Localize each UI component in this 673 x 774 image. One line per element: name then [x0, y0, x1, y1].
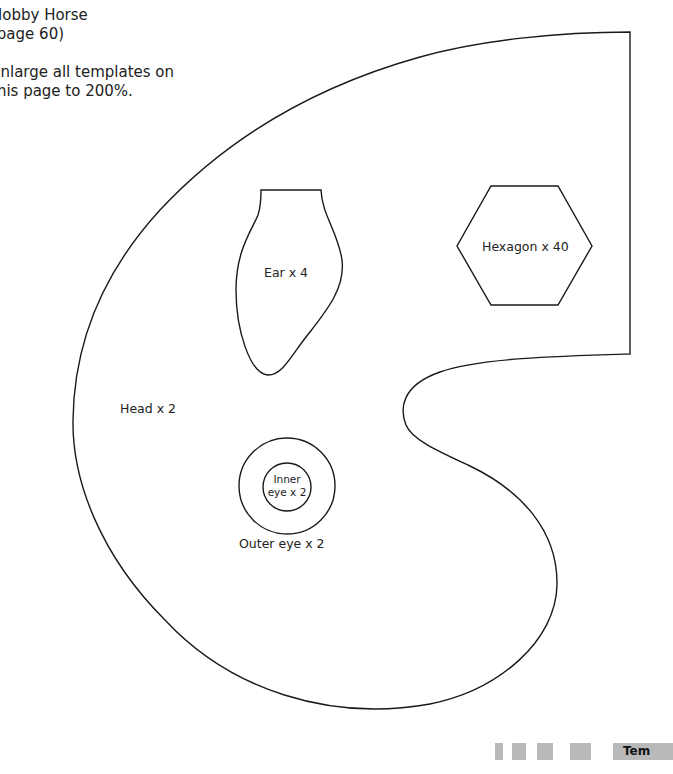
footer-section-tab: Tem [613, 743, 673, 760]
inner-eye-label-line-2: eye x 2 [267, 486, 307, 499]
inner-eye-label: Inner eye x 2 [267, 473, 307, 499]
head-label: Head x 2 [120, 401, 176, 416]
head-outline [73, 32, 630, 709]
footer-bar-2 [512, 743, 526, 760]
hexagon-label: Hexagon x 40 [482, 239, 569, 254]
ear-outline [236, 190, 342, 375]
inner-eye-label-line-1: Inner [267, 473, 307, 486]
footer-bar-4 [570, 743, 591, 760]
ear-label: Ear x 4 [264, 265, 308, 280]
footer-bar-1 [495, 743, 503, 760]
footer-bar-3 [537, 743, 553, 760]
outer-eye-label: Outer eye x 2 [239, 536, 325, 551]
